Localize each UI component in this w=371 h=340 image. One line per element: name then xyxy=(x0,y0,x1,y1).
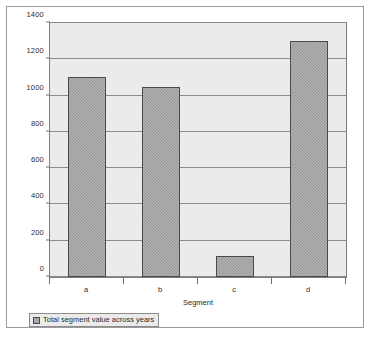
x-axis-labels: a b c d xyxy=(49,285,347,297)
bar-a[interactable] xyxy=(68,77,106,277)
chart-legend[interactable]: Total segment value across years xyxy=(29,313,159,327)
xtick-mark-3 xyxy=(271,277,272,284)
ytick-label-200: 200 xyxy=(31,227,44,236)
ytick-label-1000: 1000 xyxy=(27,82,45,91)
xtick-label-c: c xyxy=(232,285,236,294)
xtick-label-b: b xyxy=(158,285,162,294)
x-axis-title: Segment xyxy=(49,298,347,307)
plot-area: 0 200 400 600 800 1000 1200 1400 xyxy=(49,22,347,278)
bar-b[interactable] xyxy=(142,87,180,277)
bar-c[interactable] xyxy=(216,256,254,277)
xtick-mark-4 xyxy=(345,277,346,284)
bar-slot-d xyxy=(272,23,346,277)
bar-slot-b xyxy=(124,23,198,277)
legend-swatch-icon xyxy=(33,317,40,324)
xtick-label-d: d xyxy=(306,285,310,294)
ytick-label-800: 800 xyxy=(31,118,44,127)
legend-item-label: Total segment value across years xyxy=(43,316,154,324)
xtick-label-a: a xyxy=(84,285,88,294)
xtick-mark-2 xyxy=(197,277,198,284)
xtick-mark-0 xyxy=(49,277,50,284)
x-axis-ticks xyxy=(49,277,347,285)
bar-d[interactable] xyxy=(290,41,328,277)
bar-slot-a xyxy=(50,23,124,277)
ytick-label-400: 400 xyxy=(31,191,44,200)
ytick-label-1200: 1200 xyxy=(27,46,45,55)
ytick-label-600: 600 xyxy=(31,155,44,164)
bar-slot-c xyxy=(198,23,272,277)
xtick-mark-1 xyxy=(123,277,124,284)
ytick-label-0: 0 xyxy=(40,264,44,273)
ytick-label-1400: 1400 xyxy=(27,10,45,19)
chart-frame: 0 200 400 600 800 1000 1200 1400 xyxy=(6,6,364,328)
